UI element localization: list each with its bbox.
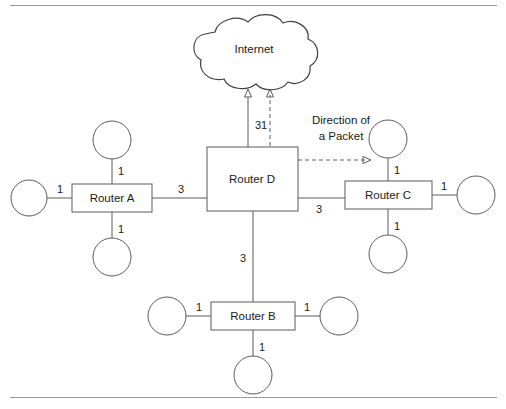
router-a-label: Router A: [90, 192, 135, 204]
host-circle-b-left[interactable]: [148, 297, 186, 335]
router-d-label: Router D: [229, 173, 275, 185]
cost-label-c-right: 1: [441, 180, 447, 192]
router-b-label: Router B: [230, 310, 276, 322]
cost-label-d-to-internet: 31: [255, 119, 267, 131]
cost-label-a-to-d: 3: [178, 183, 184, 195]
host-circle-b-bottom[interactable]: [234, 356, 272, 394]
cost-label-a-left: 1: [57, 183, 63, 195]
cost-label-b-right: 1: [304, 301, 310, 313]
cost-label-b-bottom: 1: [259, 341, 265, 353]
internet-cloud-label: Internet: [235, 43, 275, 55]
cost-label-c-bottom: 1: [394, 220, 400, 232]
cost-label-a-bottom: 1: [118, 223, 124, 235]
cost-label-d-to-c: 3: [316, 203, 322, 215]
router-c-label: Router C: [365, 189, 411, 201]
packet-direction-label-line1: Direction of: [312, 114, 371, 126]
cost-label-d-to-b: 3: [240, 252, 246, 264]
host-circle-a-top[interactable]: [93, 121, 131, 159]
host-circle-a-left[interactable]: [11, 180, 47, 216]
host-circle-c-top[interactable]: [369, 120, 407, 158]
host-circle-c-bottom[interactable]: [369, 235, 407, 273]
network-diagram-figure: Internet Router A Router D Router C Rout…: [0, 0, 506, 409]
host-circle-c-right[interactable]: [457, 176, 495, 214]
host-circle-b-right[interactable]: [320, 297, 358, 335]
packet-direction-label-line2: a Packet: [319, 130, 365, 142]
cost-label-c-top: 1: [394, 164, 400, 176]
host-circle-a-bottom[interactable]: [93, 238, 131, 276]
cost-label-b-left: 1: [196, 301, 202, 313]
cost-label-a-top: 1: [118, 165, 124, 177]
arrowhead-d-to-internet: [245, 89, 252, 97]
